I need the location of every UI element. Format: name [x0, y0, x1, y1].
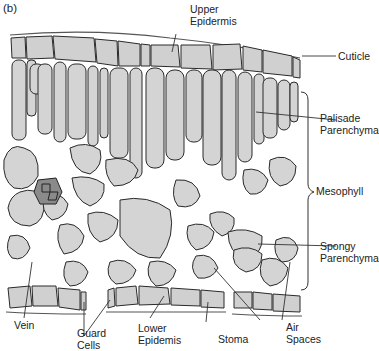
label-palisade-parenchyma: Palisade Parenchyma — [320, 112, 379, 136]
label-mesophyll: Mesophyll — [316, 185, 363, 197]
diagram-drawing — [0, 0, 379, 351]
leaf-cross-section-diagram: (b) Upper Epidermis Cuticle Palisade Par… — [0, 0, 379, 351]
label-stoma: Stoma — [218, 333, 248, 345]
label-guard-cells: Guard Cells — [77, 327, 106, 351]
label-upper-epidermis: Upper Epidermis — [190, 3, 237, 27]
panel-label: (b) — [3, 2, 17, 14]
mesophyll-brace — [301, 92, 314, 290]
label-spongy-parenchyma: Spongy Parenchyma — [320, 240, 379, 264]
label-lower-epidermis: Lower Epidemis — [138, 322, 181, 346]
palisade-cells — [12, 60, 298, 180]
guard-cell-left — [81, 292, 86, 310]
lower-epidermis-cells — [8, 286, 300, 312]
lower-cuticle — [6, 312, 302, 316]
guard-cell-right — [108, 288, 115, 308]
label-air-spaces: Air Spaces — [286, 321, 321, 345]
label-vein: Vein — [14, 319, 34, 331]
label-cuticle: Cuticle — [338, 50, 370, 62]
vein-bundle — [34, 178, 62, 204]
